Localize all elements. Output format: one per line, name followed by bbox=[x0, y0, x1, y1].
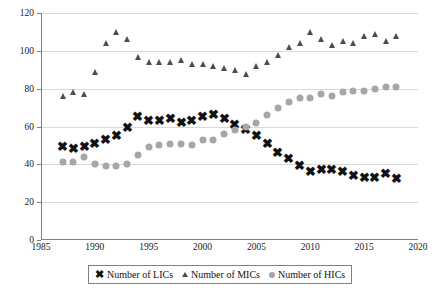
x-marker-icon: ✖ bbox=[95, 268, 104, 281]
x-axis-tick-label: 2000 bbox=[193, 242, 212, 252]
mic-data-point bbox=[361, 33, 367, 39]
mic-data-point bbox=[243, 71, 249, 77]
y-axis-tick bbox=[37, 51, 41, 52]
hic-data-point bbox=[70, 159, 77, 166]
x-axis-tick-label: 2010 bbox=[301, 242, 320, 252]
mic-data-point bbox=[372, 31, 378, 37]
chart-figure: ✖Number of LICsNumber of MICsNumber of H… bbox=[0, 0, 432, 293]
lic-data-point: ✖ bbox=[251, 130, 262, 143]
mic-data-point bbox=[113, 29, 119, 35]
hic-data-point bbox=[253, 119, 260, 126]
lic-data-point: ✖ bbox=[283, 152, 294, 165]
gridline bbox=[42, 51, 418, 52]
lic-data-point: ✖ bbox=[122, 122, 133, 135]
y-axis-tick bbox=[37, 240, 41, 241]
y-axis-tick-label: 0 bbox=[0, 235, 34, 245]
lic-data-point: ✖ bbox=[100, 133, 111, 146]
mic-data-point bbox=[146, 59, 152, 65]
hic-data-point bbox=[328, 93, 335, 100]
lic-data-point: ✖ bbox=[132, 111, 143, 124]
hic-data-point bbox=[339, 89, 346, 96]
hic-data-point bbox=[318, 91, 325, 98]
hic-data-point bbox=[371, 85, 378, 92]
mic-data-point bbox=[221, 65, 227, 71]
y-axis-tick-label: 120 bbox=[0, 8, 34, 18]
x-axis-tick-label: 2005 bbox=[247, 242, 266, 252]
mic-data-point bbox=[350, 40, 356, 46]
lic-data-point: ✖ bbox=[79, 141, 90, 154]
hic-data-point bbox=[134, 151, 141, 158]
lic-data-point: ✖ bbox=[111, 130, 122, 143]
mic-data-point bbox=[340, 38, 346, 44]
y-axis-tick-label: 60 bbox=[0, 122, 34, 132]
hic-data-point bbox=[231, 127, 238, 134]
hic-data-point bbox=[242, 123, 249, 130]
y-axis-tick bbox=[37, 89, 41, 90]
mic-data-point bbox=[60, 93, 66, 99]
x-axis-tick-label: 2020 bbox=[409, 242, 428, 252]
mic-data-point bbox=[81, 91, 87, 97]
mic-data-point bbox=[253, 63, 259, 69]
mic-data-point bbox=[92, 69, 98, 75]
hic-data-point bbox=[210, 136, 217, 143]
hic-data-point bbox=[274, 104, 281, 111]
y-axis-tick-label: 100 bbox=[0, 46, 34, 56]
x-axis-tick-label: 1995 bbox=[139, 242, 158, 252]
hic-data-point bbox=[145, 144, 152, 151]
mic-data-point bbox=[189, 61, 195, 67]
mic-data-point bbox=[232, 67, 238, 73]
lic-data-point: ✖ bbox=[294, 160, 305, 173]
y-axis-tick bbox=[37, 127, 41, 128]
hic-data-point bbox=[264, 112, 271, 119]
mic-data-point bbox=[297, 40, 303, 46]
mic-data-point bbox=[178, 57, 184, 63]
lic-data-point: ✖ bbox=[305, 166, 316, 179]
x-axis-tick-label: 1990 bbox=[85, 242, 104, 252]
mic-data-point bbox=[103, 40, 109, 46]
mic-data-point bbox=[124, 36, 130, 42]
legend-label: Number of LICs bbox=[107, 269, 173, 280]
circle-marker-icon bbox=[269, 272, 275, 278]
x-axis-tick-label: 1985 bbox=[32, 242, 51, 252]
y-axis-tick-label: 20 bbox=[0, 197, 34, 207]
hic-data-point bbox=[188, 142, 195, 149]
y-axis-tick bbox=[37, 13, 41, 14]
lic-data-point: ✖ bbox=[165, 113, 176, 126]
hic-data-point bbox=[285, 98, 292, 105]
lic-data-point: ✖ bbox=[326, 164, 337, 177]
lic-data-point: ✖ bbox=[219, 113, 230, 126]
chart-legend: ✖Number of LICsNumber of MICsNumber of H… bbox=[88, 265, 352, 284]
mic-data-point bbox=[135, 54, 141, 60]
mic-data-point bbox=[286, 44, 292, 50]
hic-data-point bbox=[167, 140, 174, 147]
lic-data-point: ✖ bbox=[197, 111, 208, 124]
lic-data-point: ✖ bbox=[186, 115, 197, 128]
x-axis-tick-label: 2015 bbox=[355, 242, 374, 252]
hic-data-point bbox=[124, 161, 131, 168]
mic-data-point bbox=[318, 36, 324, 42]
lic-data-point: ✖ bbox=[143, 115, 154, 128]
lic-data-point: ✖ bbox=[380, 168, 391, 181]
hic-data-point bbox=[382, 83, 389, 90]
mic-data-point bbox=[383, 38, 389, 44]
lic-data-point: ✖ bbox=[391, 173, 402, 186]
mic-data-point bbox=[275, 52, 281, 58]
lic-data-point: ✖ bbox=[208, 109, 219, 122]
hic-data-point bbox=[307, 95, 314, 102]
y-axis-tick-label: 40 bbox=[0, 159, 34, 169]
lic-data-point: ✖ bbox=[348, 169, 359, 182]
hic-data-point bbox=[296, 95, 303, 102]
mic-data-point bbox=[167, 59, 173, 65]
lic-data-point: ✖ bbox=[337, 166, 348, 179]
gridline bbox=[42, 164, 418, 165]
hic-data-point bbox=[178, 140, 185, 147]
legend-item: Number of MICs bbox=[182, 269, 260, 280]
hic-data-point bbox=[81, 153, 88, 160]
legend-label: Number of HICs bbox=[278, 269, 345, 280]
hic-data-point bbox=[393, 83, 400, 90]
y-axis-tick bbox=[37, 202, 41, 203]
mic-data-point bbox=[393, 33, 399, 39]
y-axis-tick-label: 80 bbox=[0, 84, 34, 94]
lic-data-point: ✖ bbox=[89, 137, 100, 150]
lic-data-point: ✖ bbox=[369, 171, 380, 184]
